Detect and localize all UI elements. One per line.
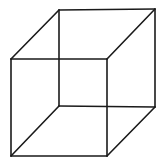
cube-edge-front-top-left-to-back-top-left — [11, 10, 59, 59]
cube-edge-front-bottom-right-to-back-bottom-right — [107, 107, 155, 156]
cube-edge-back-top-left-to-back-top-right — [59, 9, 155, 10]
necker-cube-diagram — [0, 0, 166, 168]
cube-edges — [11, 9, 155, 156]
cube-edge-front-bottom-left-to-back-bottom-left — [11, 106, 59, 156]
cube-edge-back-bottom-right-to-back-bottom-left — [59, 106, 155, 107]
cube-edge-front-top-right-to-back-top-right — [107, 9, 155, 59]
